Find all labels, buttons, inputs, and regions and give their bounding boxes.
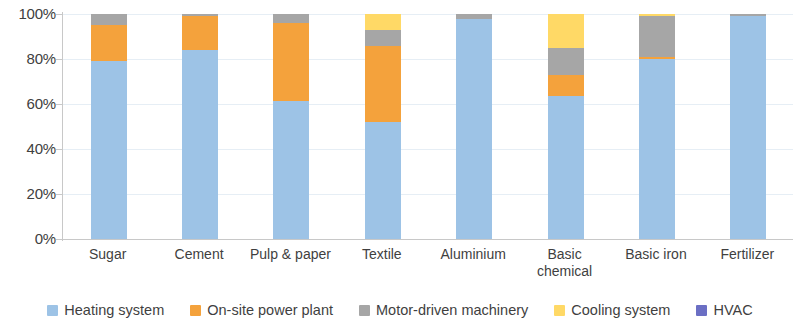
y-axis-tick-label: 100% xyxy=(4,6,56,21)
y-axis-tick-mark xyxy=(56,239,62,240)
y-axis-tick-label: 60% xyxy=(4,96,56,111)
legend-swatch-icon xyxy=(190,305,201,316)
bar-segment[interactable] xyxy=(548,75,584,96)
bar-segment[interactable] xyxy=(456,19,492,240)
x-axis-line xyxy=(62,239,793,240)
bar-stack[interactable] xyxy=(456,14,492,239)
x-axis-category-label: Textile xyxy=(336,246,427,263)
legend-item[interactable]: HVAC xyxy=(696,302,752,318)
bar-segment[interactable] xyxy=(639,16,675,57)
plot-area xyxy=(62,14,793,239)
y-axis-tick-label: 0% xyxy=(4,231,56,246)
y-axis-tick-mark xyxy=(56,149,62,150)
x-axis-category-label: Cement xyxy=(153,246,244,263)
y-axis-tick-mark xyxy=(56,104,62,105)
x-axis-category-label: Sugar xyxy=(62,246,153,263)
bar-stack[interactable] xyxy=(182,14,218,239)
bar-stack[interactable] xyxy=(273,14,309,239)
bar-segment[interactable] xyxy=(730,14,766,16)
bar-segment[interactable] xyxy=(91,14,127,25)
bar-segment[interactable] xyxy=(639,57,675,59)
y-axis-labels: 100%80%60%40%20%0% xyxy=(0,0,56,250)
bar-segment[interactable] xyxy=(639,59,675,239)
y-axis-tick-label: 40% xyxy=(4,141,56,156)
y-axis-line xyxy=(62,12,63,241)
bar-segment[interactable] xyxy=(365,14,401,30)
bar-segment[interactable] xyxy=(365,30,401,46)
bar-segment[interactable] xyxy=(91,61,127,239)
legend-item[interactable]: Motor-driven machinery xyxy=(359,302,528,318)
x-axis-category-label: Pulp & paper xyxy=(245,246,336,263)
bar-stack[interactable] xyxy=(365,14,401,239)
legend-item[interactable]: On-site power plant xyxy=(190,302,333,318)
bar-segment[interactable] xyxy=(365,122,401,239)
bar-segment[interactable] xyxy=(273,14,309,23)
legend-swatch-icon xyxy=(696,305,707,316)
bar-segment[interactable] xyxy=(639,14,675,16)
legend-swatch-icon xyxy=(47,305,58,316)
bar-segment[interactable] xyxy=(273,23,309,101)
x-axis-category-label: Basic iron xyxy=(610,246,701,263)
y-axis-tick-label: 80% xyxy=(4,51,56,66)
gridline xyxy=(62,149,793,150)
legend-item[interactable]: Cooling system xyxy=(554,302,670,318)
bar-stack[interactable] xyxy=(91,14,127,239)
bar-segment[interactable] xyxy=(548,14,584,48)
y-axis-tick-mark xyxy=(56,59,62,60)
bar-stack[interactable] xyxy=(639,14,675,239)
legend-label: Cooling system xyxy=(571,302,670,318)
x-axis-category-label: Basic chemical xyxy=(519,246,610,280)
bar-segment[interactable] xyxy=(182,16,218,50)
bar-segment[interactable] xyxy=(182,14,218,16)
y-axis-tick-label: 20% xyxy=(4,186,56,201)
x-axis-category-label: Fertilizer xyxy=(702,246,793,263)
bar-stack[interactable] xyxy=(730,14,766,239)
bar-segment[interactable] xyxy=(548,96,584,239)
gridline xyxy=(62,104,793,105)
legend-label: HVAC xyxy=(713,302,752,318)
legend-swatch-icon xyxy=(359,305,370,316)
bar-segment[interactable] xyxy=(91,25,127,61)
bar-segment[interactable] xyxy=(273,101,309,239)
stacked-bar-chart: 100%80%60%40%20%0% SugarCementPulp & pap… xyxy=(0,0,800,328)
bar-segment[interactable] xyxy=(730,16,766,239)
gridline xyxy=(62,59,793,60)
gridline xyxy=(62,194,793,195)
bar-segment[interactable] xyxy=(182,50,218,239)
y-axis-tick-mark xyxy=(56,194,62,195)
legend-label: Motor-driven machinery xyxy=(376,302,528,318)
chart-legend: Heating systemOn-site power plantMotor-d… xyxy=(0,297,800,323)
bar-segment[interactable] xyxy=(548,48,584,75)
bar-segment[interactable] xyxy=(365,46,401,123)
gridline xyxy=(62,14,793,15)
x-axis-category-label: Aluminium xyxy=(428,246,519,263)
bar-segment[interactable] xyxy=(456,14,492,19)
x-axis-category-labels: SugarCementPulp & paperTextileAluminiumB… xyxy=(62,246,793,290)
legend-swatch-icon xyxy=(554,305,565,316)
legend-label: On-site power plant xyxy=(207,302,333,318)
y-axis-tick-mark xyxy=(56,14,62,15)
bar-stack[interactable] xyxy=(548,14,584,239)
legend-item[interactable]: Heating system xyxy=(47,302,164,318)
legend-label: Heating system xyxy=(64,302,164,318)
